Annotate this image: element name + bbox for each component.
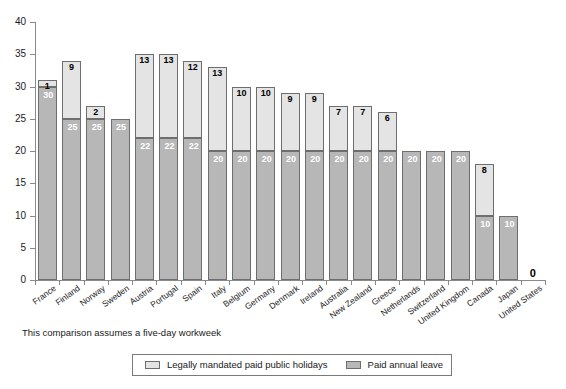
y-axis-tick-label: 40 bbox=[0, 15, 26, 28]
bar-value-label-public-holidays: 7 bbox=[328, 107, 349, 117]
bar-segment-annual-leave[interactable]: 22 bbox=[135, 138, 154, 280]
bar-segment-annual-leave[interactable]: 25 bbox=[111, 119, 130, 280]
bar-segment-annual-leave[interactable]: 22 bbox=[159, 138, 178, 280]
y-axis-tick-label: 20 bbox=[0, 144, 26, 157]
bar-value-label-public-holidays: 10 bbox=[255, 88, 276, 98]
bar-value-label-public-holidays: 6 bbox=[377, 113, 398, 123]
bar-group[interactable]: 301 bbox=[38, 22, 57, 280]
bar-value-label-public-holidays: 2 bbox=[85, 107, 106, 117]
bar-value-label-public-holidays: 9 bbox=[61, 62, 82, 72]
y-axis-tick-label: 10 bbox=[0, 209, 26, 222]
bar-group[interactable]: 10 bbox=[499, 22, 518, 280]
bar-segment-annual-leave[interactable]: 30 bbox=[38, 87, 57, 281]
bar-value-label-annual-leave: 20 bbox=[452, 154, 471, 164]
bar-segment-annual-leave[interactable]: 20 bbox=[329, 151, 348, 280]
bar-value-label-annual-leave: 20 bbox=[233, 154, 252, 164]
bar-value-label-annual-leave: 22 bbox=[184, 141, 203, 151]
bar-value-label-annual-leave: 10 bbox=[500, 219, 519, 229]
bar-segment-annual-leave[interactable]: 25 bbox=[62, 119, 81, 280]
bar-value-label-public-holidays: 12 bbox=[182, 62, 203, 72]
x-axis-category-label: Portugal bbox=[148, 283, 180, 310]
bar-group[interactable]: 259 bbox=[62, 22, 81, 280]
bar-value-label-public-holidays: 9 bbox=[280, 94, 301, 104]
bar-segment-annual-leave[interactable]: 20 bbox=[402, 151, 421, 280]
stacked-bar-chart: 4035302520151050 30125925225221322132212… bbox=[0, 0, 566, 389]
bar-segment-public-holidays[interactable] bbox=[208, 67, 227, 151]
bar-group[interactable]: 2212 bbox=[183, 22, 202, 280]
bar-group[interactable]: 206 bbox=[378, 22, 397, 280]
legend-swatch-public-holidays-icon bbox=[145, 361, 160, 369]
bar-segment-annual-leave[interactable]: 10 bbox=[499, 216, 518, 281]
bar-value-label-public-holidays: 13 bbox=[158, 55, 179, 65]
y-axis-tick-label: 25 bbox=[0, 112, 26, 125]
y-axis-tick-label: 30 bbox=[0, 80, 26, 93]
bar-group[interactable]: 252 bbox=[86, 22, 105, 280]
bar-group[interactable]: 207 bbox=[329, 22, 348, 280]
legend-label-public-holidays: Legally mandated paid public holidays bbox=[167, 359, 328, 371]
bar-group[interactable]: 209 bbox=[281, 22, 300, 280]
bar-value-label-annual-leave: 20 bbox=[403, 154, 422, 164]
bar-value-label-annual-leave: 10 bbox=[476, 219, 495, 229]
bar-segment-annual-leave[interactable]: 20 bbox=[208, 151, 227, 280]
bar-value-label-annual-leave: 20 bbox=[379, 154, 398, 164]
bar-value-label-annual-leave: 20 bbox=[354, 154, 373, 164]
y-axis-tick-label: 5 bbox=[0, 241, 26, 254]
legend-item-annual-leave: Paid annual leave bbox=[346, 355, 444, 375]
bar-segment-annual-leave[interactable]: 20 bbox=[232, 151, 251, 280]
chart-caption: This comparison assumes a five-day workw… bbox=[22, 327, 221, 339]
bar-value-label-public-holidays: 13 bbox=[134, 55, 155, 65]
x-axis-category-labels: FranceFinlandNorwaySwedenAustriaPortugal… bbox=[0, 283, 566, 333]
bar-value-label-public-holidays: 9 bbox=[304, 94, 325, 104]
bar-group[interactable]: 25 bbox=[111, 22, 130, 280]
bar-group[interactable]: 207 bbox=[353, 22, 372, 280]
bar-segment-annual-leave[interactable]: 20 bbox=[353, 151, 372, 280]
bar-group[interactable]: 20 bbox=[451, 22, 470, 280]
legend-item-public-holidays: Legally mandated paid public holidays bbox=[145, 355, 328, 375]
x-axis-category-label: Spain bbox=[180, 283, 203, 304]
bar-segment-annual-leave[interactable]: 22 bbox=[183, 138, 202, 280]
bar-value-label-public-holidays: 8 bbox=[474, 165, 495, 175]
bar-group[interactable]: 0 bbox=[523, 22, 542, 280]
bar-segment-annual-leave[interactable]: 20 bbox=[305, 151, 324, 280]
bar-value-label-public-holidays: 10 bbox=[231, 88, 252, 98]
bar-segment-public-holidays[interactable] bbox=[183, 61, 202, 138]
bar-segment-annual-leave[interactable]: 20 bbox=[451, 151, 470, 280]
x-axis-category-label: Canada bbox=[465, 283, 495, 309]
bar-group[interactable]: 20 bbox=[426, 22, 445, 280]
bar-segment-annual-leave[interactable]: 10 bbox=[475, 216, 494, 281]
bar-group[interactable]: 2010 bbox=[256, 22, 275, 280]
bar-value-label-annual-leave: 25 bbox=[63, 122, 82, 132]
bar-segment-public-holidays[interactable] bbox=[159, 54, 178, 138]
bar-group[interactable]: 2213 bbox=[159, 22, 178, 280]
bar-zero-label: 0 bbox=[522, 267, 543, 279]
bar-value-label-annual-leave: 25 bbox=[87, 122, 106, 132]
bar-value-label-annual-leave: 20 bbox=[282, 154, 301, 164]
bar-value-label-annual-leave: 22 bbox=[160, 141, 179, 151]
legend-label-annual-leave: Paid annual leave bbox=[368, 359, 444, 371]
bar-group[interactable]: 2010 bbox=[232, 22, 251, 280]
bar-value-label-annual-leave: 20 bbox=[427, 154, 446, 164]
bar-value-label-annual-leave: 25 bbox=[112, 122, 131, 132]
bar-segment-annual-leave[interactable]: 20 bbox=[281, 151, 300, 280]
bar-segment-annual-leave[interactable]: 20 bbox=[378, 151, 397, 280]
bar-value-label-annual-leave: 20 bbox=[330, 154, 349, 164]
x-axis-category-label: France bbox=[31, 283, 58, 307]
y-axis-tick-label: 15 bbox=[0, 176, 26, 189]
bar-group[interactable]: 209 bbox=[305, 22, 324, 280]
bar-segment-public-holidays[interactable] bbox=[135, 54, 154, 138]
x-axis-category-label: Finland bbox=[54, 283, 82, 307]
bar-group[interactable]: 20 bbox=[402, 22, 421, 280]
bar-segment-annual-leave[interactable]: 20 bbox=[426, 151, 445, 280]
bar-value-label-public-holidays: 7 bbox=[352, 107, 373, 117]
bar-value-label-annual-leave: 20 bbox=[257, 154, 276, 164]
y-axis-tick-label: 35 bbox=[0, 47, 26, 60]
bar-value-label-annual-leave: 20 bbox=[209, 154, 228, 164]
bar-group[interactable]: 2013 bbox=[208, 22, 227, 280]
chart-legend: Legally mandated paid public holidays Pa… bbox=[132, 354, 452, 376]
bar-value-label-annual-leave: 22 bbox=[136, 141, 155, 151]
bar-group[interactable]: 2213 bbox=[135, 22, 154, 280]
bar-value-label-public-holidays: 13 bbox=[207, 68, 228, 78]
bar-group[interactable]: 108 bbox=[475, 22, 494, 280]
bar-segment-annual-leave[interactable]: 20 bbox=[256, 151, 275, 280]
bar-segment-annual-leave[interactable]: 25 bbox=[86, 119, 105, 280]
